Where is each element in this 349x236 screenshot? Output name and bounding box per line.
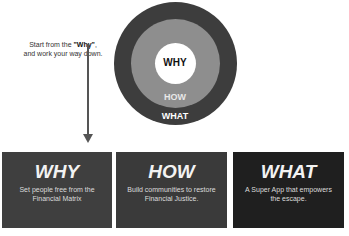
what-card-description: A Super App that empowers the escape. <box>233 185 344 203</box>
what-card: WHAT A Super App that empowers the escap… <box>233 152 344 228</box>
instruction-note: Start from the "Why", and work your way … <box>8 40 118 58</box>
circle-what-label: WHAT <box>145 111 205 121</box>
how-card: HOW Build communities to restore Financi… <box>116 152 227 228</box>
why-card: WHY Set people free from the Financial M… <box>2 152 112 228</box>
note-prefix: Start from the <box>29 41 73 48</box>
note-line2: and work your way down. <box>24 50 103 57</box>
arrow-down-icon <box>83 134 93 143</box>
why-card-description: Set people free from the Financial Matri… <box>2 185 112 203</box>
how-card-description: Build communities to restore Financial J… <box>116 185 227 203</box>
circle-why-label: WHY <box>145 57 205 68</box>
down-arrow-shaft <box>87 44 89 136</box>
circle-how-label: HOW <box>145 92 205 102</box>
why-card-title: WHY <box>2 162 112 182</box>
how-card-title: HOW <box>116 162 227 182</box>
what-card-title: WHAT <box>233 162 344 182</box>
note-emphasis: "Why" <box>73 41 94 48</box>
note-suffix: , <box>95 41 97 48</box>
